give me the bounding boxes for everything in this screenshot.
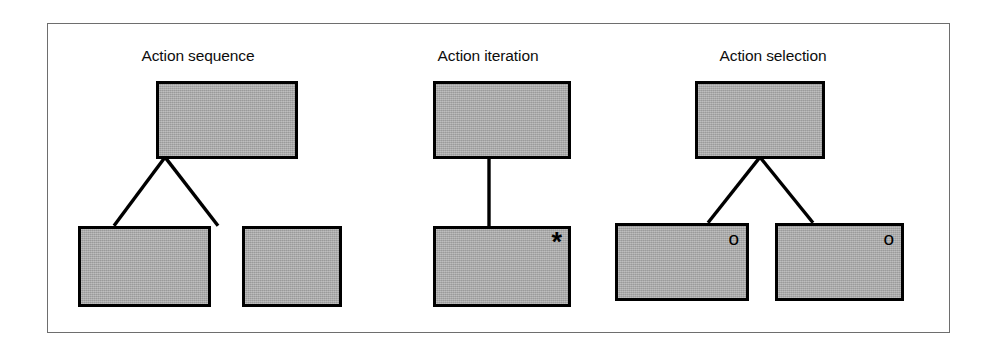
node-sequence-child-1[interactable] (78, 226, 211, 307)
node-sequence-parent[interactable] (156, 81, 298, 159)
figure-frame: Action sequence Action iteration (47, 23, 950, 333)
node-sequence-child-2[interactable] (242, 226, 342, 307)
figure-root: Action sequence Action iteration (0, 0, 989, 354)
node-selection-parent[interactable] (695, 81, 825, 159)
node-iteration-child-1[interactable]: * (433, 226, 571, 307)
node-iteration-parent[interactable] (433, 81, 571, 159)
panel-action-selection: Action selection o o (608, 24, 938, 332)
panel-title-action-sequence: Action sequence (48, 46, 348, 65)
node-selection-child-2[interactable]: o (775, 223, 904, 301)
optional-circle-icon-2: o (883, 229, 894, 249)
panel-action-sequence: Action sequence (48, 24, 348, 332)
panel-title-action-iteration: Action iteration (378, 46, 598, 65)
iteration-asterisk-icon: * (551, 230, 562, 254)
connector-parent-to-child-2 (760, 157, 813, 223)
connector-parent-to-child-1 (708, 157, 760, 223)
panel-title-action-selection: Action selection (608, 46, 938, 65)
connector-parent-to-child-2 (165, 157, 218, 226)
connector-parent-to-child-1 (114, 157, 165, 226)
node-selection-child-1[interactable]: o (615, 223, 749, 301)
optional-circle-icon-1: o (728, 229, 739, 249)
panel-action-iteration: Action iteration * (378, 24, 598, 332)
